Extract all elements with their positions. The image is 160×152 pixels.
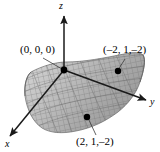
point-label-p1: (–2, 1,–2): [103, 44, 146, 55]
point-p1: [115, 68, 121, 74]
point-label-p2: (2, 1,–2): [76, 136, 114, 147]
surface-plot-canvas: [0, 0, 160, 152]
y-axis-label: y: [150, 97, 154, 107]
figure-3d-saddle-surface: (0, 0, 0) (–2, 1,–2) (2, 1,–2) x y z: [0, 0, 160, 152]
point-origin: [61, 67, 68, 74]
z-axis-label: z: [59, 1, 63, 11]
point-p2: [84, 114, 90, 120]
surface-mesh-grid: [18, 48, 150, 138]
saddle-surface: [18, 48, 150, 138]
x-axis-label: x: [5, 139, 9, 149]
point-label-origin: (0, 0, 0): [20, 44, 55, 55]
